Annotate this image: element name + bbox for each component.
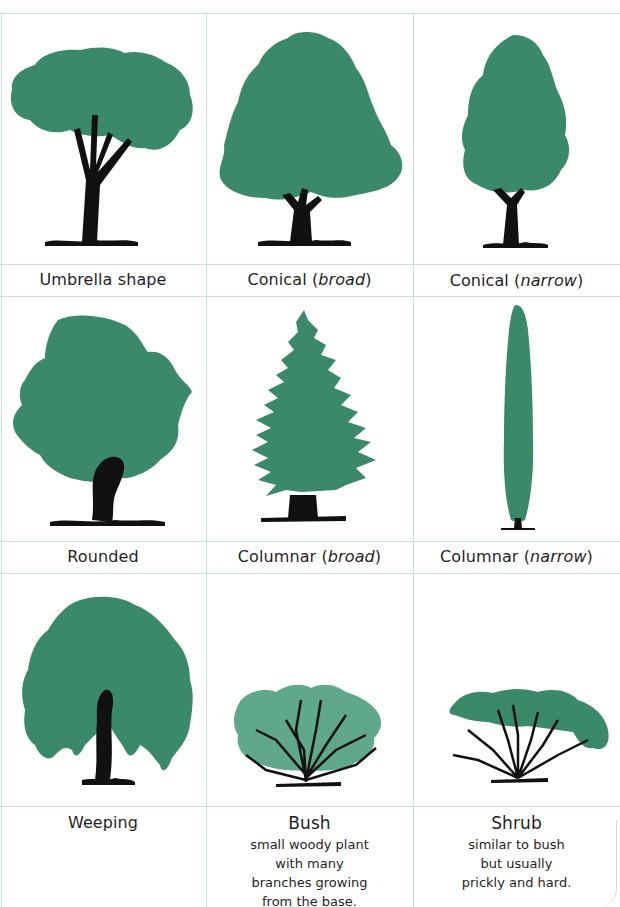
- bush-description: small woody plant with many branches gro…: [206, 835, 413, 907]
- description-line: similar to bush: [413, 835, 620, 854]
- label-text: Shrub: [491, 813, 542, 833]
- label-text: Rounded: [67, 547, 138, 566]
- label-conical-narrow: Conical (narrow): [413, 271, 620, 291]
- description-line: small woody plant: [206, 835, 413, 854]
- label-text: Conical (: [450, 271, 521, 290]
- description-line: branches growing: [206, 873, 413, 892]
- label-rounded: Rounded: [0, 547, 206, 567]
- label-end: ): [375, 547, 381, 566]
- label-text: Umbrella shape: [40, 270, 167, 289]
- bush-icon: [206, 660, 413, 790]
- label-text: Columnar (: [440, 547, 530, 566]
- label-columnar-narrow: Columnar (narrow): [413, 547, 620, 567]
- shrub-description: similar to bush but usually prickly and …: [413, 835, 620, 892]
- label-text: Conical (: [247, 270, 318, 289]
- description-line: from the base.: [206, 892, 413, 907]
- grid-line: [0, 573, 620, 574]
- grid-line: [0, 296, 620, 297]
- label-qualifier: broad: [318, 270, 365, 289]
- grid-line: [0, 806, 620, 807]
- label-end: ): [577, 271, 583, 290]
- grid-line: [0, 264, 620, 265]
- label-qualifier: narrow: [520, 271, 577, 290]
- label-weeping: Weeping: [0, 813, 206, 833]
- columnar-broad-tree-icon: [206, 300, 413, 540]
- label-end: ): [365, 270, 371, 289]
- label-text: Bush: [288, 813, 330, 833]
- label-bush: Bush: [206, 813, 413, 833]
- label-shrub: Shrub: [413, 813, 620, 833]
- description-line: prickly and hard.: [413, 873, 620, 892]
- label-conical-broad: Conical (broad): [206, 270, 413, 290]
- grid-line-top: [0, 13, 620, 14]
- label-columnar-broad: Columnar (broad): [206, 547, 413, 567]
- label-qualifier: broad: [328, 547, 375, 566]
- tree-shapes-figure: Umbrella shape Conical (broad) Conical (…: [0, 0, 620, 907]
- columnar-narrow-tree-icon: [413, 300, 620, 540]
- label-umbrella-shape: Umbrella shape: [0, 270, 206, 290]
- rounded-tree-icon: [0, 300, 206, 540]
- conical-narrow-tree-icon: [413, 20, 620, 260]
- label-qualifier: narrow: [530, 547, 587, 566]
- description-line: but usually: [413, 854, 620, 873]
- label-end: ): [587, 547, 593, 566]
- umbrella-tree-icon: [0, 20, 206, 260]
- label-text: Weeping: [68, 813, 138, 832]
- weeping-tree-icon: [0, 580, 206, 805]
- page-edge: [598, 820, 617, 907]
- grid-line: [0, 541, 620, 542]
- shrub-icon: [413, 660, 620, 790]
- conical-broad-tree-icon: [206, 20, 413, 260]
- label-text: Columnar (: [238, 547, 328, 566]
- description-line: with many: [206, 854, 413, 873]
